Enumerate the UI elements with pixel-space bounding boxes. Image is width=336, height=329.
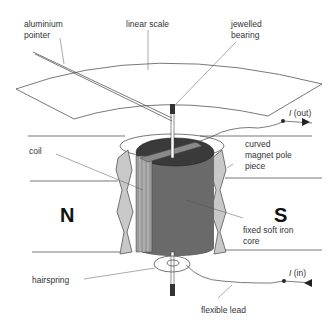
label-pointer: pointer — [24, 30, 50, 40]
label-bearing: bearing — [231, 30, 260, 40]
label-jewelled: jewelled — [230, 19, 262, 29]
label-south-pole: S — [274, 204, 287, 226]
label-piece: piece — [245, 161, 266, 171]
label-coil: coil — [29, 146, 42, 156]
label-magnet-pole: magnet pole — [245, 150, 292, 160]
label-flexible-lead: flexible lead — [201, 305, 246, 315]
label-current-out: I (out) — [289, 108, 311, 118]
left-pole-piece — [116, 150, 133, 254]
label-linear-scale: linear scale — [126, 19, 169, 29]
linear-scale — [16, 63, 322, 119]
flexible-lead-in — [186, 265, 283, 283]
label-curved: curved — [245, 139, 271, 149]
label-aluminium: aluminium — [24, 19, 63, 29]
label-north-pole: N — [60, 204, 74, 226]
label-fixed-soft-iron: fixed soft iron — [243, 225, 294, 235]
label-core: core — [243, 236, 260, 246]
moving-coil-meter-diagram: aluminium pointer linear scale jewelled … — [0, 0, 336, 329]
label-hairspring: hairspring — [32, 275, 70, 285]
label-current-in: I (in) — [289, 268, 306, 278]
